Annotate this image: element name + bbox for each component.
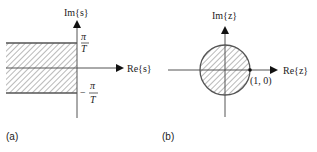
im-z-label: Im{z} — [212, 10, 237, 21]
im-s-label: Im{s} — [64, 7, 89, 18]
caption-a: (a) — [6, 131, 18, 142]
im-axis-arrow-icon — [221, 26, 229, 34]
panel-a: Im{s} Re{s} π T − π T (a) — [6, 7, 152, 142]
re-z-label: Re{z} — [283, 65, 308, 76]
im-axis-arrow-icon — [73, 20, 81, 28]
lower-T: T — [90, 94, 97, 105]
upper-pi: π — [81, 31, 87, 42]
upper-T: T — [81, 43, 88, 54]
caption-b: (b) — [162, 131, 174, 142]
panel-b: Im{z} Re{z} (1, 0) (b) — [162, 10, 308, 142]
re-s-label: Re{s} — [127, 63, 152, 74]
lower-sign: − — [80, 87, 86, 98]
point-label: (1, 0) — [250, 75, 272, 87]
point-1-0-marker — [248, 68, 252, 72]
lower-pi: π — [90, 80, 96, 91]
re-axis-arrow-icon — [116, 64, 124, 72]
diagram-canvas: Im{s} Re{s} π T − π T (a) Im{z} Re{z} (1… — [0, 0, 317, 152]
re-axis-arrow-icon — [270, 66, 278, 74]
